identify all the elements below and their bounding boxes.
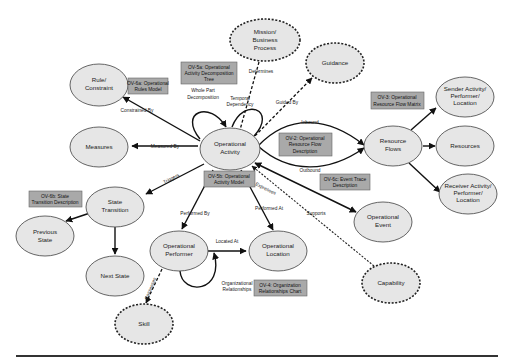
svg-text:State: State — [38, 236, 53, 243]
node-operational-location[interactable]: Operational Location — [249, 231, 307, 271]
svg-text:Transition Description: Transition Description — [31, 200, 78, 205]
node-next-state[interactable]: Next State — [86, 256, 144, 296]
svg-text:Location: Location — [453, 99, 477, 106]
svg-text:Previous: Previous — [33, 228, 57, 235]
view-ov4[interactable]: OV-4: Organization Relationships Chart — [254, 280, 307, 296]
label-temporal: Temporal — [230, 96, 250, 101]
view-ov5a[interactable]: OV-5a: Operational Activity Decompositio… — [181, 62, 237, 84]
svg-text:Skill: Skill — [138, 320, 149, 327]
svg-text:Process: Process — [254, 44, 276, 51]
label-determines: Determines — [249, 69, 274, 74]
svg-text:Performer/: Performer/ — [450, 92, 480, 99]
label-dependency: Dependency — [227, 102, 255, 107]
svg-text:Capability: Capability — [377, 279, 405, 286]
svg-text:Operational: Operational — [214, 140, 246, 147]
svg-text:Operational: Operational — [262, 242, 294, 249]
node-mission-business-process[interactable]: Mission/ Business Process — [230, 19, 300, 61]
view-ov6a[interactable]: OV-6a: Operational Rules Model — [127, 78, 169, 94]
node-skill[interactable]: Skill — [115, 304, 173, 344]
svg-text:Next State: Next State — [101, 272, 130, 279]
svg-text:Transition: Transition — [102, 206, 129, 213]
node-operational-activity[interactable]: Operational Activity — [200, 128, 260, 170]
node-capability[interactable]: Capability — [362, 263, 420, 303]
view-ov6c[interactable]: OV-6c: Event Trace Description — [320, 174, 370, 190]
label-guided-by: Guided By — [276, 100, 299, 105]
label-constrained-by: Constrained By — [121, 108, 154, 113]
svg-text:Event: Event — [375, 221, 391, 228]
label-outbound: Outbound — [299, 168, 320, 173]
label-possesses: Possesses — [144, 276, 158, 300]
label-decomposition: Decomposition — [187, 95, 219, 100]
svg-text:Location: Location — [456, 196, 480, 203]
svg-text:Mission/: Mission/ — [254, 28, 277, 35]
svg-text:OV-4: Organization: OV-4: Organization — [259, 283, 301, 288]
view-ov6b[interactable]: OV-6b: State Transition Description — [29, 191, 82, 207]
view-ov3[interactable]: OV-3: Operational Resource Flow Matrix — [371, 92, 424, 109]
node-rule-constraint[interactable]: Rule/ Constraint — [70, 64, 128, 106]
view-ov5b[interactable]: OV-5b: Operational Activity Model — [204, 171, 255, 187]
svg-text:Description: Description — [293, 149, 318, 154]
edge-rf-sender — [411, 108, 436, 130]
edge-previous-state — [66, 213, 90, 221]
svg-text:Rules Model: Rules Model — [134, 87, 161, 92]
svg-text:Relationships Chart: Relationships Chart — [259, 289, 302, 294]
node-operational-performer[interactable]: Operational Performer — [150, 231, 208, 271]
label-triggers: Triggers — [162, 172, 180, 185]
svg-text:Operational: Operational — [163, 242, 195, 249]
svg-text:Resource Flow: Resource Flow — [289, 142, 322, 147]
svg-text:State: State — [108, 198, 123, 205]
node-sender-activity[interactable]: Sender Activity/ Performer/ Location — [436, 77, 494, 117]
svg-text:Description: Description — [333, 183, 358, 188]
svg-text:Receiver Activity/: Receiver Activity/ — [444, 182, 491, 189]
svg-text:Performer/: Performer/ — [453, 189, 483, 196]
edge-constrained-by — [123, 97, 200, 141]
svg-text:Business: Business — [252, 36, 277, 43]
svg-text:Location: Location — [266, 250, 290, 257]
svg-text:OV-2: Operational: OV-2: Operational — [285, 136, 324, 141]
label-performed-at: Performed At — [255, 206, 284, 211]
edge-rf-receiver — [409, 163, 440, 192]
node-state-transition[interactable]: State Transition — [86, 187, 144, 227]
label-inbound: Inbound — [301, 120, 319, 125]
svg-text:Resource Flow Matrix: Resource Flow Matrix — [373, 102, 421, 107]
view-ov2[interactable]: OV-2: Operational Resource Flow Descript… — [279, 133, 332, 156]
svg-text:Rule/: Rule/ — [92, 76, 107, 83]
svg-text:Resource: Resource — [380, 137, 407, 144]
node-resource-flows[interactable]: Resource Flows — [364, 126, 422, 166]
operational-viewpoint-diagram: Mission/ Business Process Guidance Rule/… — [0, 0, 513, 363]
svg-text:OV-6a: Operational: OV-6a: Operational — [127, 81, 169, 86]
svg-text:OV-5a: Operational: OV-5a: Operational — [188, 65, 230, 70]
label-measured-by: Measured By — [151, 144, 180, 149]
node-operational-event[interactable]: Operational Event — [354, 202, 412, 242]
svg-text:OV-5b: Operational: OV-5b: Operational — [208, 174, 250, 179]
label-relationships: Relationships — [223, 287, 252, 292]
node-measures[interactable]: Measures — [70, 127, 128, 167]
label-located-at: Located At — [216, 239, 239, 244]
svg-text:Tree: Tree — [204, 77, 214, 82]
node-receiver-activity[interactable]: Receiver Activity/ Performer/ Location — [439, 174, 497, 214]
svg-text:OV-3: Operational: OV-3: Operational — [377, 95, 416, 100]
svg-text:Activity Model: Activity Model — [214, 180, 244, 185]
node-resources[interactable]: Resources — [436, 126, 494, 166]
svg-text:OV-6c: Event Trace: OV-6c: Event Trace — [324, 177, 367, 182]
svg-text:OV-6b: State: OV-6b: State — [41, 194, 69, 199]
svg-text:Constraint: Constraint — [85, 84, 113, 91]
svg-text:Sender Activity/: Sender Activity/ — [444, 85, 487, 92]
svg-text:Operational: Operational — [367, 213, 399, 220]
label-performed-by: Performed By — [180, 211, 210, 216]
label-whole-part: Whole Part — [191, 88, 215, 93]
label-organizational: Organizational — [222, 281, 253, 286]
svg-text:Activity: Activity — [220, 148, 241, 155]
svg-text:Flows: Flows — [385, 145, 401, 152]
label-supports: Supports — [306, 211, 326, 216]
node-previous-state[interactable]: Previous State — [16, 216, 74, 256]
svg-text:Measures: Measures — [85, 143, 112, 150]
svg-text:Performer: Performer — [165, 250, 193, 257]
svg-text:Guidance: Guidance — [322, 59, 349, 66]
svg-text:Activity Decomposition: Activity Decomposition — [184, 71, 233, 76]
svg-text:Resources: Resources — [450, 142, 480, 149]
node-guidance[interactable]: Guidance — [306, 43, 364, 83]
